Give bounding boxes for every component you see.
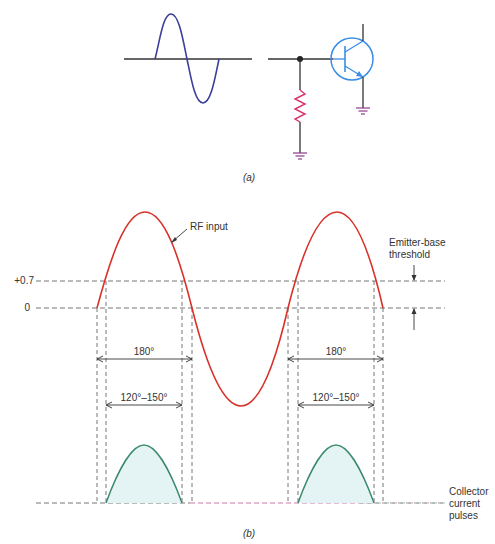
- pulses-label-line1: Collector: [449, 486, 489, 497]
- waveform-part-b: RF input +0.7 0 Emitter-base threshold 1…: [14, 212, 489, 539]
- class-c-amplifier-diagram: (a) RF input +0.7 0: [0, 0, 495, 544]
- rf-input-wave: [97, 212, 383, 406]
- conduction-label-2: 180°: [326, 346, 347, 357]
- rf-input-label: RF input: [190, 221, 228, 232]
- npn-transistor-icon: [331, 38, 373, 80]
- threshold-label-line1: Emitter-base: [389, 237, 446, 248]
- pulses-label-line2: current: [449, 498, 480, 509]
- angle-label-2: 120°–150°: [313, 392, 360, 403]
- ground-icon: [293, 153, 307, 159]
- circuit-part-a: (a): [124, 14, 373, 183]
- threshold-arrowhead-up: [412, 308, 417, 314]
- threshold-arrowhead-down: [412, 275, 417, 281]
- pulses-label-line3: pulses: [449, 510, 478, 521]
- ground-icon: [356, 108, 370, 114]
- resistor-icon: [295, 90, 305, 122]
- conduction-label-1: 180°: [134, 346, 155, 357]
- caption-a: (a): [243, 172, 255, 183]
- threshold-label-line2: threshold: [389, 249, 430, 260]
- level-0-label: 0: [24, 302, 30, 313]
- angle-label-1: 120°–150°: [121, 392, 168, 403]
- caption-b: (b): [243, 528, 255, 539]
- level-07-label: +0.7: [14, 275, 34, 286]
